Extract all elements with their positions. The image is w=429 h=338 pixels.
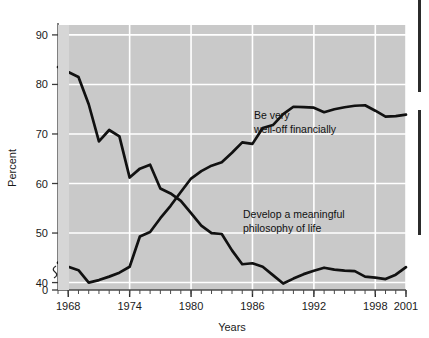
y-tick-label: 70 bbox=[36, 128, 48, 140]
line-chart: 1968197419801986199219982001 04050607080… bbox=[0, 0, 429, 338]
x-axis-label: Years bbox=[218, 321, 246, 333]
y-tick-label: 40 bbox=[36, 277, 48, 289]
x-tick-label: 1992 bbox=[302, 300, 326, 312]
annotation-line-1: Develop a meaningful bbox=[243, 208, 345, 220]
y-tick-label: 80 bbox=[36, 78, 48, 90]
page-edge-artifact bbox=[418, 0, 429, 338]
x-tick-label: 1998 bbox=[363, 300, 387, 312]
chart-figure: 1968197419801986199219982001 04050607080… bbox=[0, 0, 429, 338]
x-tick-label: 1968 bbox=[56, 300, 80, 312]
x-tick-label: 2001 bbox=[394, 300, 418, 312]
y-tick-label: 60 bbox=[36, 178, 48, 190]
annotation-line-1: Be very bbox=[254, 109, 290, 121]
annotation-line-2: well-off financially bbox=[253, 123, 337, 135]
y-axis-label: Percent bbox=[6, 149, 18, 187]
annotation-line-2: philosophy of life bbox=[243, 222, 321, 234]
y-tick-label: 90 bbox=[36, 29, 48, 41]
y-tick-label: 50 bbox=[36, 227, 48, 239]
x-tick-label: 1980 bbox=[179, 300, 203, 312]
x-tick-label: 1986 bbox=[240, 300, 264, 312]
x-tick-label: 1974 bbox=[117, 300, 141, 312]
